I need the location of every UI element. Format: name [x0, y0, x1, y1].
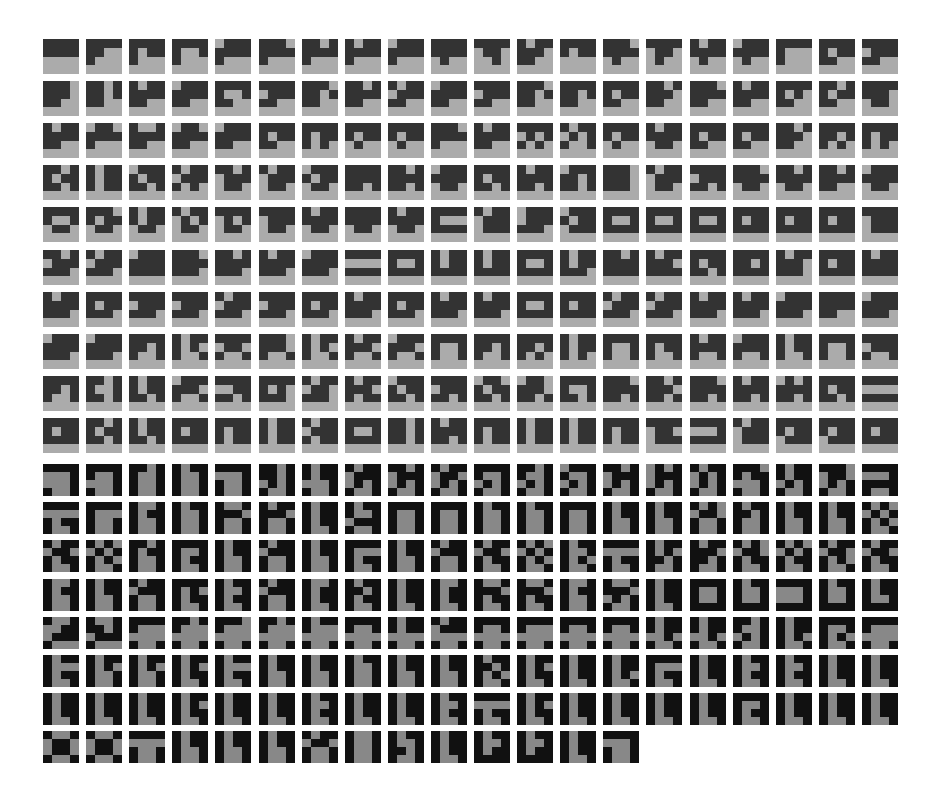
- tile-cell: [406, 165, 415, 174]
- tile-cell: [603, 310, 612, 319]
- tile-cell: [233, 394, 242, 403]
- tile-cell: [526, 394, 535, 403]
- tile-cell: [646, 655, 655, 663]
- tile-cell: [587, 132, 596, 141]
- tile-cell: [172, 250, 181, 259]
- tile-cell: [458, 48, 467, 57]
- tile-cell: [345, 526, 354, 534]
- tile-cell: [630, 701, 639, 709]
- tile-cell: [320, 292, 329, 301]
- tile-cell: [190, 595, 199, 603]
- tile-cell: [871, 310, 880, 319]
- tile-cell: [458, 579, 467, 587]
- tile-cell: [578, 427, 587, 436]
- tile-cell: [458, 141, 467, 150]
- tile-cell: [43, 518, 52, 526]
- tile-cell: [837, 502, 846, 510]
- tile-cell: [560, 480, 569, 488]
- tile-cell: [52, 250, 61, 259]
- tile-cell: [372, 343, 381, 352]
- tile-cell: [388, 510, 397, 518]
- tile-cell: [431, 394, 440, 403]
- tile-cell: [95, 717, 104, 725]
- tile-cell: [172, 709, 181, 717]
- tile-cell: [95, 276, 104, 285]
- tile-cell: [329, 595, 338, 603]
- tile-cell: [372, 518, 381, 526]
- tile-cell: [372, 402, 381, 411]
- tile-cell: [673, 663, 682, 671]
- tile-cell: [449, 107, 458, 116]
- tile-cell: [415, 540, 424, 548]
- tile-cell: [242, 526, 251, 534]
- tile-cell: [86, 107, 95, 116]
- tile-cell: [776, 352, 785, 361]
- tile-cell: [846, 301, 855, 310]
- bottom-tile: [302, 693, 338, 725]
- tile-cell: [612, 301, 621, 310]
- tile-cell: [388, 436, 397, 445]
- tile-cell: [819, 655, 828, 663]
- tile-cell: [708, 427, 717, 436]
- tile-cell: [329, 444, 338, 453]
- tile-cell: [181, 701, 190, 709]
- tile-cell: [862, 633, 871, 641]
- tile-cell: [388, 731, 397, 739]
- tile-cell: [181, 526, 190, 534]
- tile-cell: [286, 402, 295, 411]
- bottom-tile: [345, 502, 381, 534]
- tile-cell: [138, 385, 147, 394]
- tile-cell: [86, 250, 95, 259]
- tile-cell: [286, 526, 295, 534]
- tile-cell: [862, 603, 871, 611]
- tile-cell: [544, 48, 553, 57]
- tile-cell: [776, 655, 785, 663]
- tile-cell: [104, 343, 113, 352]
- tile-cell: [751, 318, 760, 327]
- tile-cell: [415, 617, 424, 625]
- tile-cell: [388, 717, 397, 725]
- tile-cell: [751, 595, 760, 603]
- tile-cell: [181, 663, 190, 671]
- tile-cell: [181, 99, 190, 108]
- tile-cell: [699, 99, 708, 108]
- tile-cell: [138, 343, 147, 352]
- tile-cell: [846, 216, 855, 225]
- tile-cell: [578, 141, 587, 150]
- tile-cell: [431, 444, 440, 453]
- tile-cell: [630, 225, 639, 234]
- tile-cell: [440, 587, 449, 595]
- tile-cell: [560, 617, 569, 625]
- tile-cell: [587, 595, 596, 603]
- tile-cell: [517, 225, 526, 234]
- tile-cell: [458, 540, 467, 548]
- tile-cell: [751, 444, 760, 453]
- tile-cell: [621, 216, 630, 225]
- tile-cell: [837, 579, 846, 587]
- tile-cell: [690, 174, 699, 183]
- tile-cell: [717, 436, 726, 445]
- tile-cell: [501, 617, 510, 625]
- tile-cell: [224, 216, 233, 225]
- tile-cell: [190, 717, 199, 725]
- tile-cell: [138, 731, 147, 739]
- tile-cell: [819, 436, 828, 445]
- tile-cell: [646, 394, 655, 403]
- tile-cell: [104, 444, 113, 453]
- tile-cell: [587, 207, 596, 216]
- tile-cell: [440, 216, 449, 225]
- tile-cell: [760, 709, 769, 717]
- tile-cell: [372, 334, 381, 343]
- top-tile: [431, 292, 467, 327]
- tile-cell: [311, 276, 320, 285]
- tile-cell: [492, 191, 501, 200]
- tile-cell: [776, 360, 785, 369]
- tile-cell: [286, 57, 295, 66]
- tile-cell: [699, 502, 708, 510]
- tile-cell: [70, 376, 79, 385]
- tile-cell: [837, 385, 846, 394]
- tile-cell: [61, 418, 70, 427]
- tile-cell: [794, 90, 803, 99]
- tile-cell: [621, 141, 630, 150]
- top-tile: [172, 334, 208, 369]
